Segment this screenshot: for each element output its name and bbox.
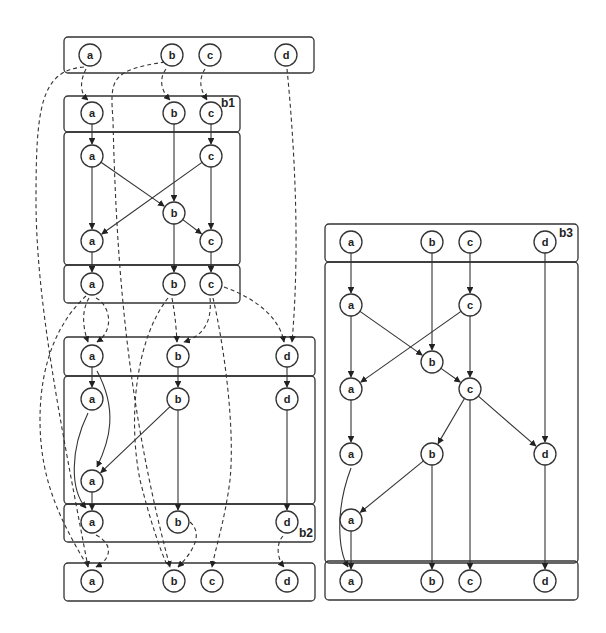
node-label: c <box>207 49 213 61</box>
node-b2m-d: d <box>276 388 298 410</box>
node-label: c <box>208 278 214 290</box>
node-label: b <box>429 448 436 460</box>
node-label: b <box>171 207 178 219</box>
node-label: b <box>175 350 182 362</box>
dashed-dataflow-edge <box>96 298 109 342</box>
node-b2i-a: a <box>81 345 103 367</box>
node-label: a <box>89 107 96 119</box>
node-label: b <box>175 393 182 405</box>
node-b2m-a1: a <box>81 388 103 410</box>
edge-b3m-a1-to-b3m-b1 <box>360 311 422 355</box>
node-label: a <box>348 236 355 248</box>
node-label: b <box>429 356 436 368</box>
node-b3m-b1: b <box>421 351 443 373</box>
node-label: a <box>348 299 355 311</box>
node-label: a <box>89 235 96 247</box>
block-labels: b1b2b3 <box>221 96 573 540</box>
node-b3m-a3: a <box>340 443 362 465</box>
node-label: b <box>175 516 182 528</box>
node-b2o-d: d <box>276 511 298 533</box>
node-b3o-b: b <box>421 570 443 592</box>
node-b1o-a: a <box>81 273 103 295</box>
node-label: c <box>208 107 214 119</box>
node-label: d <box>542 575 549 587</box>
node-label: d <box>284 393 291 405</box>
node-label: a <box>87 49 94 61</box>
dataflow-diagram: abcdabcacbacabcabdabdaabdabcdabcdacbacab… <box>0 0 606 633</box>
edge-b3m-c2-to-b3m-d <box>478 396 536 446</box>
node-b3m-c1: c <box>459 294 481 316</box>
node-b3m-d: d <box>534 443 556 465</box>
node-label: a <box>89 516 96 528</box>
node-b2i-b: b <box>167 345 189 367</box>
node-label: b <box>169 49 176 61</box>
node-f-d: d <box>276 570 298 592</box>
node-label: a <box>89 475 96 487</box>
edge-b1m-a1-to-b1m-b <box>101 162 164 206</box>
dashed-dataflow-edge <box>96 535 108 567</box>
node-label: a <box>348 383 355 395</box>
dashed-dataflow-edge <box>287 69 296 342</box>
dashed-dataflow-edge <box>184 298 210 342</box>
node-b3i-b: b <box>421 231 443 253</box>
node-label: c <box>208 235 214 247</box>
dashed-dataflow-edge <box>212 298 231 567</box>
node-label: c <box>208 150 214 162</box>
node-label: c <box>467 299 473 311</box>
variable-nodes: abcdabcacbacabcabdabdaabdabcdabcdacbacab… <box>79 44 556 592</box>
node-b1m-a2: a <box>81 230 103 252</box>
node-b3o-a: a <box>340 570 362 592</box>
node-label: b <box>429 575 436 587</box>
node-f-a: a <box>81 570 103 592</box>
node-b1i-a: a <box>81 102 103 124</box>
node-label: c <box>467 236 473 248</box>
node-b3i-a: a <box>340 231 362 253</box>
node-f-c: c <box>201 570 223 592</box>
block-label-b1: b1 <box>221 96 235 110</box>
node-b3i-c: c <box>459 231 481 253</box>
node-b3m-b2: b <box>421 443 443 465</box>
node-label: c <box>467 575 473 587</box>
node-label: d <box>542 236 549 248</box>
node-label: c <box>467 383 473 395</box>
node-b1m-c1: c <box>200 145 222 167</box>
node-t-c: c <box>199 44 221 66</box>
dashed-dataflow-edge <box>84 298 89 342</box>
node-label: b <box>171 575 178 587</box>
node-b2o-a: a <box>81 511 103 533</box>
edge-b1m-b-to-b1m-c2 <box>183 220 202 234</box>
node-b1m-a1: a <box>81 145 103 167</box>
node-b1i-b: b <box>163 102 185 124</box>
node-label: a <box>348 575 355 587</box>
dashed-dataflow-edge <box>112 62 170 567</box>
node-label: a <box>89 150 96 162</box>
block-label-b3: b3 <box>559 226 573 240</box>
node-b2o-b: b <box>167 511 189 533</box>
edge-b3m-c2-to-b3m-b2 <box>438 398 464 443</box>
node-b2m-a2: a <box>81 470 103 492</box>
node-label: a <box>348 514 355 526</box>
node-label: d <box>542 448 549 460</box>
node-b2m-b: b <box>167 388 189 410</box>
dashed-edges <box>36 62 296 567</box>
node-t-d: d <box>275 44 297 66</box>
node-label: b <box>171 278 178 290</box>
node-label: a <box>89 350 96 362</box>
node-b3m-c2: c <box>459 378 481 400</box>
curved-edge-to-b2m-a2 <box>97 371 110 467</box>
node-b3i-d: d <box>534 231 556 253</box>
node-label: a <box>348 448 355 460</box>
curved-edge-to-b2o-a <box>74 413 88 508</box>
node-b3o-c: c <box>459 570 481 592</box>
block-box-b3-body <box>325 262 578 563</box>
edge-b3m-b2-to-b3m-a4 <box>360 461 423 512</box>
node-t-a: a <box>79 44 101 66</box>
node-label: a <box>89 393 96 405</box>
node-b3o-d: d <box>534 570 556 592</box>
node-label: b <box>429 236 436 248</box>
node-b1m-b: b <box>163 202 185 224</box>
block-boxes <box>64 37 578 601</box>
node-t-b: b <box>161 44 183 66</box>
node-label: a <box>89 575 96 587</box>
node-label: d <box>284 516 291 528</box>
